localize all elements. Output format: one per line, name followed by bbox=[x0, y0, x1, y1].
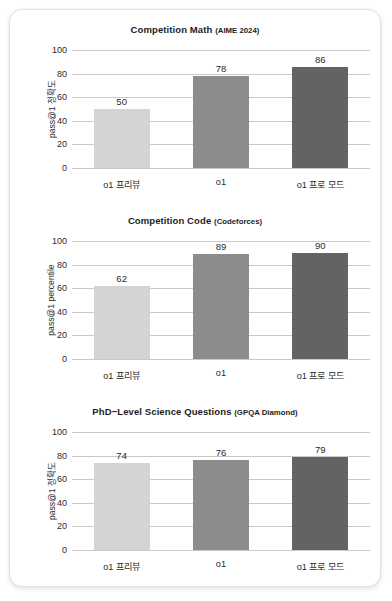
y-axis-tick-label: 80 bbox=[57, 451, 67, 461]
bar bbox=[292, 253, 348, 359]
chart-title-subtitle: (AIME 2024) bbox=[215, 26, 259, 35]
bar-group: 76o1 bbox=[171, 432, 270, 550]
y-axis-tick-label: 40 bbox=[57, 116, 67, 126]
bar-value-label: 89 bbox=[216, 241, 227, 252]
x-axis-tick-label: o1 bbox=[216, 368, 226, 378]
plot-area: 10080604020050o1 프리뷰78o186o1 프로 모드 bbox=[72, 50, 370, 168]
bar bbox=[193, 254, 249, 359]
y-axis-tick-label: 80 bbox=[57, 260, 67, 270]
chart-title-subtitle: (Codeforces) bbox=[214, 217, 262, 226]
chart-title-subtitle: (GPQA Diamond) bbox=[234, 408, 297, 417]
bar-group: 50o1 프리뷰 bbox=[72, 50, 171, 168]
charts-container: Competition Math (AIME 2024)pass@1 정확도10… bbox=[10, 10, 380, 586]
chart-panel: PhD−Level Science Questions (GPQA Diamon… bbox=[10, 406, 380, 587]
y-axis-label: pass@1 정확도 bbox=[44, 50, 58, 168]
bar-value-label: 90 bbox=[315, 240, 326, 251]
chart-title: Competition Math (AIME 2024) bbox=[10, 24, 380, 35]
x-axis-tick-label: o1 프리뷰 bbox=[103, 559, 140, 573]
bar bbox=[193, 460, 249, 550]
y-axis-tick-label: 60 bbox=[57, 474, 67, 484]
bar-value-label: 78 bbox=[216, 63, 227, 74]
chart-title: Competition Code (Codeforces) bbox=[10, 215, 380, 226]
bar-value-label: 86 bbox=[315, 54, 326, 65]
benchmark-card: Competition Math (AIME 2024)pass@1 정확도10… bbox=[9, 9, 381, 587]
y-axis-tick-label: 20 bbox=[57, 521, 67, 531]
x-axis-tick-label: o1 프로 모드 bbox=[297, 368, 344, 382]
bar bbox=[94, 463, 150, 550]
bar-group: 79o1 프로 모드 bbox=[271, 432, 370, 550]
bar-value-label: 79 bbox=[315, 444, 326, 455]
bar-group: 78o1 bbox=[171, 50, 270, 168]
y-axis-tick-label: 40 bbox=[57, 307, 67, 317]
y-axis-tick-label: 0 bbox=[62, 545, 67, 555]
chart-title-main: PhD−Level Science Questions bbox=[92, 406, 231, 417]
bar-value-label: 74 bbox=[116, 450, 127, 461]
chart-title-main: Competition Code bbox=[128, 215, 211, 226]
y-axis-tick-label: 100 bbox=[52, 236, 67, 246]
y-axis-tick-label: 80 bbox=[57, 69, 67, 79]
bar-group: 74o1 프리뷰 bbox=[72, 432, 171, 550]
x-axis-tick-label: o1 프로 모드 bbox=[297, 559, 344, 573]
y-axis-tick-label: 100 bbox=[52, 427, 67, 437]
bar bbox=[292, 457, 348, 550]
bar bbox=[292, 67, 348, 169]
bar-value-label: 50 bbox=[116, 96, 127, 107]
bar-group: 90o1 프로 모드 bbox=[271, 241, 370, 359]
bar-value-label: 76 bbox=[216, 447, 227, 458]
y-axis-tick-label: 100 bbox=[52, 45, 67, 55]
gridline: 0 bbox=[72, 359, 370, 360]
x-axis-tick-label: o1 프리뷰 bbox=[103, 177, 140, 191]
y-axis-tick-label: 60 bbox=[57, 92, 67, 102]
x-axis-tick-label: o1 프로 모드 bbox=[297, 177, 344, 191]
y-axis-tick-label: 20 bbox=[57, 139, 67, 149]
chart-title: PhD−Level Science Questions (GPQA Diamon… bbox=[10, 406, 380, 417]
bar bbox=[94, 109, 150, 168]
bar bbox=[193, 76, 249, 168]
chart-title-main: Competition Math bbox=[131, 24, 213, 35]
x-axis-tick-label: o1 bbox=[216, 177, 226, 187]
gridline: 0 bbox=[72, 168, 370, 169]
chart-panel: Competition Math (AIME 2024)pass@1 정확도10… bbox=[10, 24, 380, 216]
bar-group: 89o1 bbox=[171, 241, 270, 359]
y-axis-tick-label: 40 bbox=[57, 498, 67, 508]
y-axis-tick-label: 0 bbox=[62, 354, 67, 364]
bar bbox=[94, 286, 150, 359]
x-axis-tick-label: o1 프리뷰 bbox=[103, 368, 140, 382]
y-axis-label: pass@1 정확도 bbox=[44, 432, 58, 550]
plot-area: 10080604020062o1 프리뷰89o190o1 프로 모드 bbox=[72, 241, 370, 359]
y-axis-tick-label: 60 bbox=[57, 283, 67, 293]
bar-group: 62o1 프리뷰 bbox=[72, 241, 171, 359]
bar-group: 86o1 프로 모드 bbox=[271, 50, 370, 168]
plot-area: 10080604020074o1 프리뷰76o179o1 프로 모드 bbox=[72, 432, 370, 550]
gridline: 0 bbox=[72, 550, 370, 551]
y-axis-label: pass@1 percentile bbox=[44, 241, 58, 359]
y-axis-tick-label: 20 bbox=[57, 330, 67, 340]
bar-value-label: 62 bbox=[116, 273, 127, 284]
y-axis-tick-label: 0 bbox=[62, 163, 67, 173]
chart-panel: Competition Code (Codeforces)pass@1 perc… bbox=[10, 215, 380, 407]
x-axis-tick-label: o1 bbox=[216, 559, 226, 569]
